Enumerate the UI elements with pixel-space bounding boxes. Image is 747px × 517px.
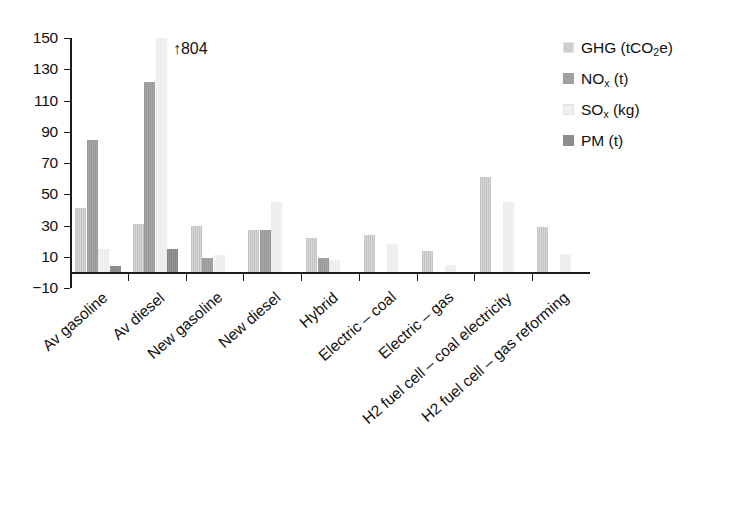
legend-label: GHG (tCO2e) <box>581 38 673 59</box>
up-arrow-icon: ↑ <box>173 41 181 57</box>
y-tick-label-10: 10 <box>0 248 58 266</box>
y-tick-label--10: −10 <box>0 279 58 297</box>
legend-item[interactable]: PM (t) <box>563 131 743 152</box>
y-tick-label-130: 130 <box>0 60 58 78</box>
overflow-annotation-value: 804 <box>181 40 208 57</box>
chart-legend: GHG (tCO2e)NOx (t)SOx (kg)PM (t) <box>563 38 743 162</box>
y-tick-label-30: 30 <box>0 217 58 235</box>
y-tick-label-110: 110 <box>0 92 58 110</box>
y-tick-label-70: 70 <box>0 154 58 172</box>
legend-label: PM (t) <box>581 131 623 150</box>
y-tick-label-50: 50 <box>0 185 58 203</box>
overflow-annotation: ↑804 <box>173 40 208 58</box>
legend-item[interactable]: GHG (tCO2e) <box>563 38 743 59</box>
chart-figure: 1501301109070503010−10 ↑804 GHG (tCO2e)N… <box>0 0 747 517</box>
y-tick-label-150: 150 <box>0 29 58 47</box>
legend-swatch-pm <box>563 135 574 146</box>
legend-item[interactable]: NOx (t) <box>563 69 743 90</box>
y-tick-label-90: 90 <box>0 123 58 141</box>
legend-swatch-ghg <box>563 42 574 53</box>
legend-label: SOx (kg) <box>581 100 640 121</box>
legend-item[interactable]: SOx (kg) <box>563 100 743 121</box>
legend-swatch-sox <box>563 104 574 115</box>
legend-label: NOx (t) <box>581 69 628 90</box>
legend-swatch-nox <box>563 73 574 84</box>
